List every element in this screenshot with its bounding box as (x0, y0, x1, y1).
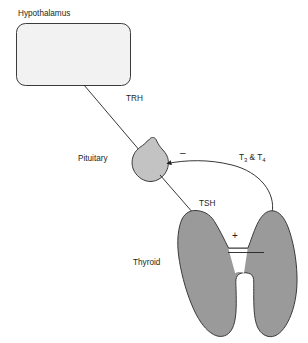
pituitary-shape[interactable] (132, 138, 168, 182)
t3t4-label-amp: & T (247, 153, 262, 162)
hypothalamus-label: Hypothalamus (18, 9, 70, 18)
thyroid-label: Thyroid (133, 258, 161, 267)
diagram-canvas: Hypothalamus TRH Pituitary – T3 & T4 TSH… (0, 0, 308, 343)
trh-label: TRH (126, 94, 143, 103)
hypothalamus-box[interactable] (17, 24, 131, 86)
negative-sign: – (180, 147, 186, 158)
diagram-svg: Hypothalamus TRH Pituitary – T3 & T4 TSH… (0, 0, 308, 343)
positive-sign: + (232, 230, 238, 241)
t3t4-label-sub4: 4 (262, 157, 266, 163)
pituitary-label: Pituitary (78, 154, 108, 163)
tsh-label: TSH (199, 199, 215, 208)
t3t4-feedback-arrow (167, 161, 273, 213)
t3t4-label: T3 & T4 (239, 153, 266, 163)
